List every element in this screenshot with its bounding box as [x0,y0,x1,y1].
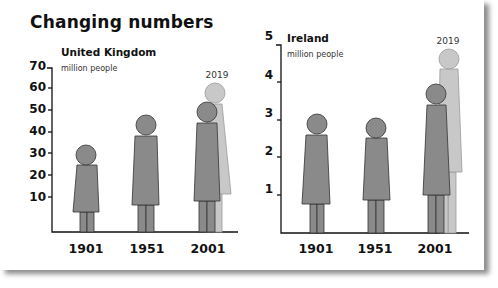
pictogram-graphics [0,0,484,270]
ie-figure-1951 [363,118,390,233]
uk-figure-1901 [73,145,99,232]
chart-card: Changing numbers United Kingdom million … [0,0,484,270]
uk-figure-1951 [132,115,159,232]
ie-figure-1901 [302,114,330,233]
